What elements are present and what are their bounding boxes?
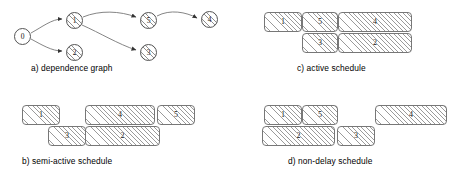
graph-node-0-label: 0 [21, 33, 25, 41]
schedule-c-block-1[interactable]: 1 [264, 12, 302, 32]
schedule-b-block-3-label: 3 [65, 132, 69, 140]
graph-node-2-label: 2 [73, 49, 77, 57]
schedule-b-block-1-label: 1 [39, 111, 43, 119]
schedule-c-block-3[interactable]: 3 [302, 33, 338, 53]
schedule-c-block-4-label: 4 [373, 18, 377, 26]
caption-panel-a: a) dependence graph [31, 63, 113, 73]
edge-0-2 [31, 39, 62, 51]
graph-node-4[interactable]: 4 [201, 11, 218, 28]
schedule-b-block-3[interactable]: 3 [48, 126, 86, 146]
schedule-b-block-2-label: 2 [121, 132, 125, 140]
schedule-c-block-5-label: 5 [318, 18, 322, 26]
schedule-d-block-3-label: 3 [354, 132, 358, 140]
schedule-d-block-2[interactable]: 2 [262, 126, 335, 146]
schedule-d-block-4[interactable]: 4 [375, 105, 447, 125]
graph-node-3-label: 3 [147, 49, 151, 57]
schedule-d-block-1-label: 1 [281, 111, 285, 119]
schedule-d-block-5-label: 5 [318, 111, 322, 119]
schedule-b-block-4[interactable]: 4 [85, 105, 155, 125]
caption-panel-c: c) active schedule [297, 63, 366, 73]
schedule-c-block-2-label: 2 [373, 39, 377, 47]
graph-node-5-label: 5 [147, 17, 151, 25]
schedule-b-block-1[interactable]: 1 [22, 105, 60, 125]
schedule-c-block-1-label: 1 [281, 18, 285, 26]
panel-dependence-graph: 0 1 2 5 3 4 [0, 0, 225, 90]
graph-node-4-label: 4 [208, 16, 212, 24]
schedule-b-block-5-label: 5 [174, 111, 178, 119]
schedule-d-block-4-label: 4 [409, 111, 413, 119]
graph-node-2[interactable]: 2 [66, 44, 83, 61]
graph-node-0[interactable]: 0 [14, 28, 31, 45]
schedule-d-block-1[interactable]: 1 [264, 105, 302, 125]
edge-5-4 [157, 12, 197, 18]
caption-panel-d: d) non-delay schedule [288, 156, 373, 166]
graph-node-3[interactable]: 3 [140, 44, 157, 61]
schedule-b-block-4-label: 4 [118, 111, 122, 119]
schedule-c-block-5[interactable]: 5 [302, 12, 338, 32]
graph-node-1[interactable]: 1 [66, 12, 83, 29]
schedule-d-block-3[interactable]: 3 [337, 126, 375, 146]
graph-edges [0, 0, 225, 90]
schedule-b-block-2[interactable]: 2 [85, 126, 160, 146]
schedule-d-block-2-label: 2 [297, 132, 301, 140]
figure-root: 0 1 2 5 3 4 a) dependence graph 1 5 4 3 … [0, 0, 459, 186]
graph-node-1-label: 1 [73, 17, 77, 25]
schedule-b-block-5[interactable]: 5 [157, 105, 195, 125]
schedule-c-block-2[interactable]: 2 [338, 33, 412, 53]
caption-panel-b: b) semi-active schedule [22, 156, 112, 166]
edge-1-3 [82, 25, 136, 50]
edge-1-5 [83, 12, 136, 17]
schedule-c-block-4[interactable]: 4 [338, 12, 412, 32]
edge-0-1 [31, 19, 62, 33]
graph-node-5[interactable]: 5 [140, 12, 157, 29]
schedule-c-block-3-label: 3 [318, 39, 322, 47]
schedule-d-block-5[interactable]: 5 [302, 105, 338, 125]
